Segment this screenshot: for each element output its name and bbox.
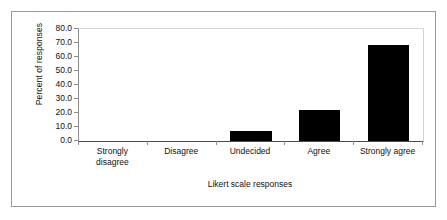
- x-axis-tick-mark: [353, 141, 354, 145]
- y-axis-tick-mark: [74, 70, 78, 71]
- x-axis-category-label: Disagree: [147, 146, 216, 167]
- y-axis-tick-label: 30.0: [32, 93, 72, 103]
- x-axis-tick-marks: [78, 141, 423, 145]
- y-axis-tick-mark: [74, 42, 78, 43]
- y-axis-tick-mark: [74, 28, 78, 29]
- x-axis-tick-mark: [422, 141, 423, 145]
- y-axis-tick-label: 70.0: [32, 37, 72, 47]
- x-axis-tick-mark: [147, 141, 148, 145]
- y-axis-tick-label: 50.0: [32, 65, 72, 75]
- bar-slot: [354, 29, 423, 141]
- bar-series: [79, 29, 423, 141]
- y-axis-tick-label: 10.0: [32, 121, 72, 131]
- y-axis-tick-mark: [74, 56, 78, 57]
- y-axis-tick-label: 20.0: [32, 107, 72, 117]
- y-axis-tick-mark: [74, 140, 78, 141]
- y-axis-tick-mark: [74, 126, 78, 127]
- x-axis-category-label: Stronglydisagree: [78, 146, 147, 167]
- x-axis-tick-mark: [284, 141, 285, 145]
- y-axis-tick-mark: [74, 98, 78, 99]
- bar: [299, 110, 340, 142]
- plot-area: [78, 28, 424, 142]
- x-axis-tick-mark: [216, 141, 217, 145]
- x-axis-category-label: Strongly agree: [353, 146, 422, 167]
- figure-frame: Percent of responses 80.070.060.050.040.…: [11, 11, 436, 207]
- x-axis-category-label: Undecided: [216, 146, 285, 167]
- x-axis-tick-mark: [78, 141, 79, 145]
- x-axis-category-label: Agree: [284, 146, 353, 167]
- x-axis-category-labels: StronglydisagreeDisagreeUndecidedAgreeSt…: [78, 146, 422, 167]
- bar-slot: [79, 29, 148, 141]
- bar-slot: [148, 29, 217, 141]
- y-axis-tick-label: 60.0: [32, 51, 72, 61]
- y-axis-tick-label: 0.0: [32, 135, 72, 145]
- y-axis-tick-mark: [74, 84, 78, 85]
- y-axis-tick-label: 40.0: [32, 79, 72, 89]
- y-axis-tick-mark: [74, 112, 78, 113]
- y-axis-tick-labels: 80.070.060.050.040.030.020.010.00.0: [32, 28, 72, 140]
- y-axis-tick-label: 80.0: [32, 23, 72, 33]
- bar-slot: [285, 29, 354, 141]
- bar-chart: Percent of responses 80.070.060.050.040.…: [12, 12, 435, 206]
- x-axis-title: Likert scale responses: [78, 179, 422, 189]
- bar-slot: [217, 29, 286, 141]
- bar: [230, 131, 271, 141]
- bar: [368, 45, 409, 141]
